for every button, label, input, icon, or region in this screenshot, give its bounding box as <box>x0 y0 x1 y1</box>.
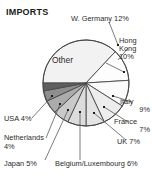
pie-label-w-germany: W. Germany 12% <box>71 15 129 23</box>
pie-label-other: Other <box>52 55 73 65</box>
leader-dot-netherlands <box>59 103 61 105</box>
leader-dot-uk <box>93 112 95 114</box>
leader-dot-france <box>103 106 105 108</box>
pie-label-italy-line1: Italy <box>120 98 134 106</box>
pie-label-italy-line2: 9% <box>110 106 150 114</box>
pie-label-france-line2: 7% <box>110 126 150 134</box>
leader-line-usa <box>32 96 52 118</box>
leader-dot-japan <box>67 109 69 111</box>
pie-chart-graphic <box>0 0 152 181</box>
leader-line-w-germany <box>109 22 118 45</box>
pie-label-usa: USA 4% <box>4 115 32 123</box>
pie-label-japan: Japan 5% <box>4 160 37 168</box>
pie-label-belgium-luxembourg: Belgium/Luxembourg 6% <box>55 160 138 168</box>
pie-label-france-line1: France <box>114 118 137 126</box>
pie-label-hong-kong-line3: 10% <box>119 53 134 61</box>
pie-label-netherlands-line2: 4% <box>4 143 15 151</box>
leader-line-japan <box>45 110 68 160</box>
leader-dot-hong-kong <box>123 71 125 73</box>
imports-pie-chart-figure: IMPORTS <box>0 0 152 181</box>
pie-label-uk: UK 7% <box>117 138 140 146</box>
leader-dot-usa <box>51 95 53 97</box>
leader-dot-italy <box>112 95 114 97</box>
leader-dot-belgium <box>79 111 81 113</box>
pie-label-netherlands-line1: Netherlands <box>4 134 44 142</box>
